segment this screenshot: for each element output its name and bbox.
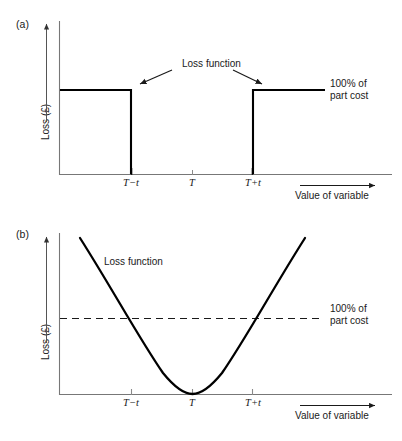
panel-b-level-annotation-line1: 100% of — [330, 303, 367, 314]
panel-a-plot — [0, 0, 402, 215]
panel-a: (a) Loss (£) — [0, 0, 402, 215]
panel-a-tick-label-0: T−t — [123, 177, 139, 188]
panel-a-leader-arrow-right — [233, 70, 262, 84]
panel-a-level-annotation-line1: 100% of — [330, 78, 367, 89]
panel-a-level-annotation-line2: part cost — [330, 90, 368, 101]
panel-b-tick-label-0: T−t — [123, 397, 139, 408]
loss-function-figure: (a) Loss (£) — [0, 0, 402, 441]
panel-a-curve-annotation: Loss function — [182, 58, 241, 70]
panel-b-plot — [0, 215, 402, 441]
panel-a-level-annotation: 100% of part cost — [330, 78, 400, 101]
panel-a-tick-label-2: T+t — [245, 177, 261, 188]
panel-a-tick-label-1: T — [189, 177, 195, 188]
panel-b: (b) Loss (£) — [0, 215, 402, 441]
panel-a-step-left — [60, 90, 131, 174]
panel-b-level-annotation-line2: part cost — [330, 315, 368, 326]
panel-a-x-axis-label: Value of variable — [295, 190, 369, 201]
panel-b-tick-label-1: T — [189, 397, 195, 408]
panel-b-x-axis-label: Value of variable — [295, 410, 369, 421]
panel-b-level-annotation: 100% of part cost — [330, 303, 400, 326]
panel-b-tick-label-2: T+t — [245, 397, 261, 408]
panel-a-step-right — [253, 90, 325, 174]
panel-b-curve-annotation: Loss function — [104, 256, 163, 268]
panel-a-leader-arrow-left — [140, 70, 172, 84]
